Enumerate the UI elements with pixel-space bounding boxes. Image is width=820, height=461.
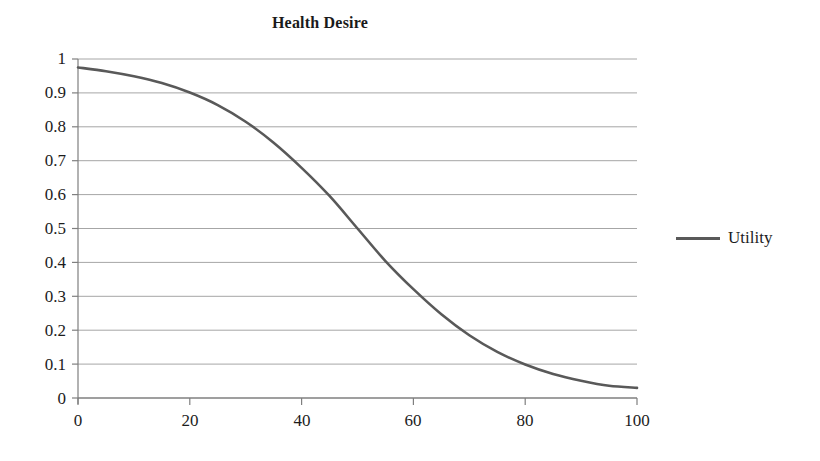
series-line-utility <box>78 67 637 387</box>
y-axis-ticks <box>72 59 78 398</box>
y-tick-label: 0 <box>14 390 66 407</box>
chart-container: Health Desire <box>0 0 820 461</box>
y-tick-label: 0.2 <box>14 322 66 339</box>
y-tick-label: 0.8 <box>14 118 66 135</box>
x-axis-ticks <box>78 398 637 405</box>
x-tick-label: 60 <box>383 412 443 429</box>
y-tick-label: 0.6 <box>14 186 66 203</box>
legend-label-utility: Utility <box>728 228 772 248</box>
y-tick-label: 0.4 <box>14 254 66 271</box>
y-tick-label: 0.3 <box>14 288 66 305</box>
gridlines <box>78 59 637 364</box>
x-tick-label: 80 <box>495 412 555 429</box>
y-tick-label: 1 <box>14 50 66 67</box>
x-tick-label: 20 <box>160 412 220 429</box>
y-tick-label: 0.5 <box>14 220 66 237</box>
x-tick-label: 40 <box>272 412 332 429</box>
y-tick-label: 0.7 <box>14 152 66 169</box>
chart-legend: Utility <box>676 228 772 248</box>
x-tick-label: 100 <box>607 412 667 429</box>
y-tick-label: 0.1 <box>14 356 66 373</box>
x-tick-label: 0 <box>48 412 108 429</box>
y-tick-label: 0.9 <box>14 84 66 101</box>
legend-line-swatch-icon <box>676 237 720 240</box>
